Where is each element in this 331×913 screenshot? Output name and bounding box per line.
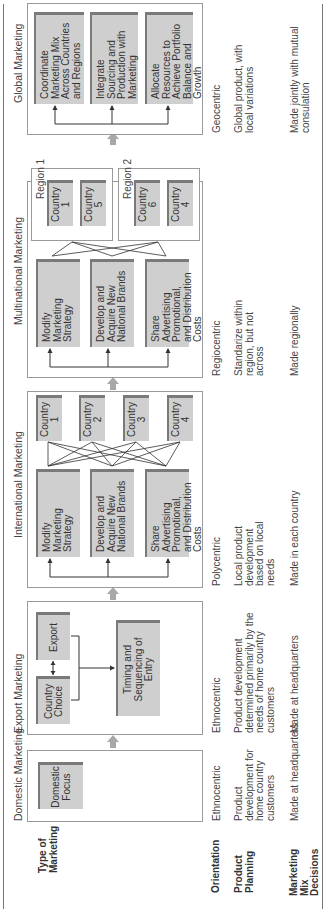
multinational-connectors [28, 182, 202, 377]
export-marketing-mix: Made at headquarters [290, 613, 301, 733]
stage-title-domestic: Domestic Marketing [12, 728, 24, 821]
stage-title-multinational: Multinational Marketing [12, 217, 24, 325]
global-frame: Coordinate Marketing Mix Across Countrie… [27, 3, 203, 135]
domestic-orientation: Ethnocentric [212, 741, 223, 821]
export-frame: Country Choice Export Timing and Sequenc… [27, 601, 203, 735]
international-orientation: Polycentric [212, 506, 223, 586]
top-rule [3, 4, 4, 909]
multinational-orientation: Regiocentric [212, 296, 223, 376]
global-orientation: Geocentric [212, 53, 223, 133]
multinational-marketing-mix: Made regionally [290, 256, 301, 376]
international-product-planning: Local product development based on local… [234, 504, 276, 586]
row-label-type-of-marketing: Type of Marketing [38, 813, 59, 873]
domestic-marketing-mix: Made at headquarters [290, 731, 301, 821]
row-label-marketing-mix-decisions: Marketing Mix Decisions [289, 841, 321, 896]
domestic-product-planning: Product development for home country cus… [234, 746, 276, 821]
bottom-rule [322, 4, 323, 909]
international-connectors [28, 392, 202, 587]
global-connectors [28, 4, 202, 134]
stage-title-global: Global Marketing [12, 24, 24, 103]
export-product-planning: Product development determined primarily… [234, 593, 276, 733]
domestic-frame: Domestic Focus [27, 750, 203, 822]
export-orientation: Ethnocentric [212, 653, 223, 733]
box-domestic-focus: Domestic Focus [38, 762, 83, 809]
row-label-orientation: Orientation [211, 823, 222, 893]
multinational-frame: Modify Marketing Strategy Develop and Ac… [27, 181, 203, 378]
stage-title-export: Export Marketing [12, 654, 24, 733]
international-marketing-mix: Made in each country [290, 466, 301, 586]
stage-title-international: International Marketing [12, 431, 24, 538]
international-frame: Modify Marketing Strategy Develop and Ac… [27, 391, 203, 588]
export-connectors [28, 602, 202, 734]
row-label-product-planning: Product Planning [234, 843, 255, 893]
global-product-planning: Global product, with local variations [234, 38, 255, 133]
multinational-product-planning: Standarize within region, but not across [234, 296, 266, 376]
marketing-evolution-diagram: Type of Marketing Orientation Product Pl… [0, 0, 331, 913]
global-marketing-mix: Made jointly with mutual consulation [290, 23, 311, 133]
